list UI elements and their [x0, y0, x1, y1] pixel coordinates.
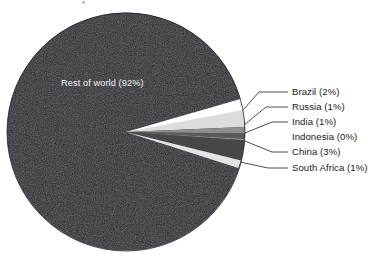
scan-speck — [82, 1, 85, 4]
pie-chart-page: Rest of world (92%) Brazil (2%) Russia (… — [0, 0, 379, 267]
leader-line-india — [245, 122, 288, 133]
callout-label-china: China (3%) — [292, 146, 341, 157]
pie-chart-figure: Rest of world (92%) Brazil (2%) Russia (… — [0, 0, 379, 267]
leader-line-south-africa — [240, 162, 288, 168]
slice-label-rest-of-world: Rest of world (92%) — [61, 78, 144, 88]
callout-label-brazil: Brazil (2%) — [292, 86, 339, 97]
callout-label-indonesia: Indonesia (0%) — [292, 131, 357, 142]
leader-line-china — [245, 141, 288, 152]
callout-label-russia: Russia (1%) — [292, 101, 345, 112]
callout-label-south-africa: South Africa (1%) — [292, 162, 368, 173]
callout-label-india: India (1%) — [292, 116, 336, 127]
